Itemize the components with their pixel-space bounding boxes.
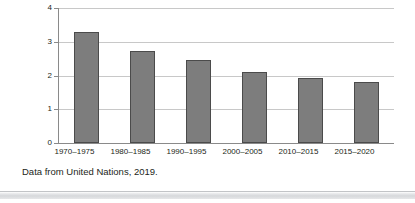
x-label-1990-1995: 1990–1995	[159, 148, 215, 156]
x-label-1970-1975: 1970–1975	[47, 148, 103, 156]
x-label-2015-2020: 2015–2020	[327, 148, 383, 156]
x-label-2000-2005: 2000–2005	[215, 148, 271, 156]
bar-1970-1975	[74, 32, 99, 143]
bar-1980-1985	[130, 51, 155, 143]
gridline-4	[58, 8, 394, 9]
y-tick-mark-2	[54, 76, 58, 77]
plot-area	[58, 8, 394, 143]
y-tick-mark-4	[54, 8, 58, 9]
gridline-3	[58, 42, 394, 43]
x-axis-baseline	[58, 143, 394, 144]
y-tick-label-3: 3	[48, 38, 52, 46]
y-tick-mark-0	[54, 143, 58, 144]
y-tick-label-1: 1	[48, 105, 52, 113]
y-tick-label-2: 2	[48, 72, 52, 80]
bar-1990-1995	[186, 60, 211, 143]
y-tick-mark-3	[54, 42, 58, 43]
figure: 4 3 2 1 0 1970–1975 1980–1985 1990–1995 …	[0, 0, 415, 203]
y-axis-spine	[58, 8, 59, 144]
source-caption: Data from United Nations, 2019.	[22, 167, 158, 177]
x-label-1980-1985: 1980–1985	[103, 148, 159, 156]
y-tick-label-0: 0	[48, 139, 52, 147]
y-tick-label-4: 4	[48, 4, 52, 12]
gridline-1	[58, 109, 394, 110]
bar-2000-2005	[242, 72, 267, 143]
gridline-2	[58, 76, 394, 77]
bar-2015-2020	[354, 82, 379, 143]
bar-2010-2015	[298, 78, 323, 143]
x-label-2010-2015: 2010–2015	[271, 148, 327, 156]
y-tick-mark-1	[54, 109, 58, 110]
page-bottom-band	[0, 192, 415, 199]
